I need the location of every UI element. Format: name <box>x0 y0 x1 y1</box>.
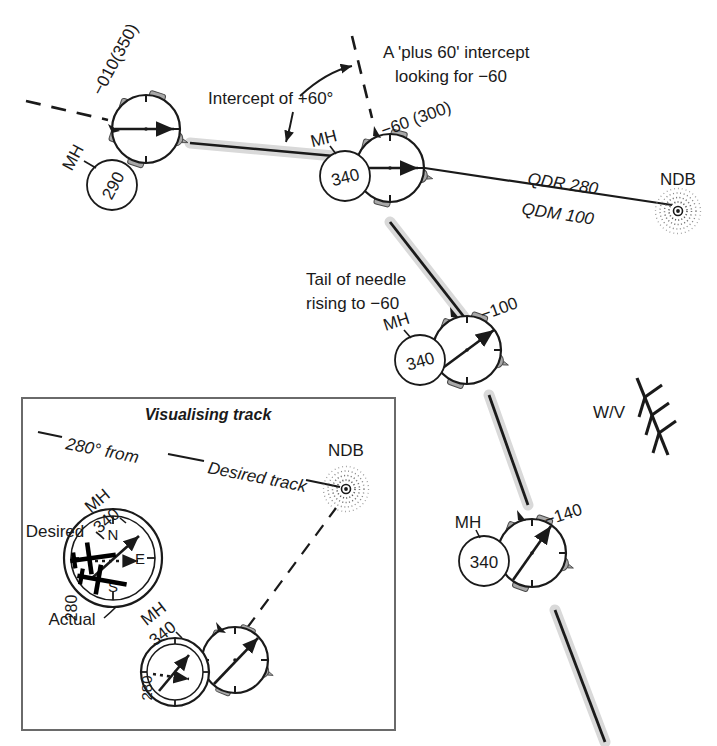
qdm-label: QDM 100 <box>520 199 595 229</box>
aircraft-2-mh-label: MH <box>309 126 339 151</box>
plus60-callout-line2: looking for −60 <box>395 67 507 86</box>
aircraft-1-relative-bearing: −010(350) <box>88 21 141 99</box>
aircraft-4-relative-bearing: −140 <box>542 500 584 530</box>
inset-compass-e: E <box>135 550 145 567</box>
aircraft-4: 340 MH −140 <box>455 500 587 604</box>
qdr-dashed-extension <box>352 36 372 118</box>
ndb-label-main: NDB <box>660 170 696 189</box>
leg-4-onward <box>555 610 605 742</box>
aircraft-1-mh-label: MH <box>59 141 88 173</box>
inset-aircraft-track-value: 280 <box>138 675 155 700</box>
aircraft-4-mh-bubble: 340 <box>459 536 509 586</box>
inset-aircraft-adf-dial <box>202 627 268 693</box>
aircraft-1-track-extension <box>26 101 108 120</box>
wind-velocity-arrow <box>637 378 676 455</box>
aircraft-2-relative-bearing: −60 (300) <box>378 97 453 140</box>
aircraft-4-mh-label: MH <box>455 513 481 532</box>
inset-ndb-label: NDB <box>328 441 364 460</box>
tail-callout-line2: rising to −60 <box>306 294 399 313</box>
aircraft-3: 340 MH −100 <box>381 293 522 401</box>
inset-actual-label: Actual <box>48 610 95 629</box>
aircraft-1: 290 MH −010(350) <box>59 21 200 210</box>
aircraft-3-relative-bearing: −100 <box>478 293 520 324</box>
aircraft-1-adf-dial <box>112 95 180 163</box>
aircraft-2-mh-bubble: 340 <box>320 151 370 201</box>
inset-visualising-track: Visualising track 280° from Desired trac… <box>22 398 395 730</box>
aircraft-3-mh-bubble: 340 <box>395 335 445 385</box>
wind-velocity-label: W/V <box>593 403 626 422</box>
inset-title: Visualising track <box>145 406 273 423</box>
plus60-callout-line1: A 'plus 60' intercept <box>383 43 530 62</box>
ndb-beacon-main <box>656 189 701 234</box>
tail-callout-line1: Tail of needle <box>306 270 406 289</box>
inset-desired-label: Desired <box>26 522 85 541</box>
intercept-callout-label: Intercept of +60° <box>208 89 333 108</box>
diagram-canvas: 290 MH −010(350) 340 MH −60 (300) <box>0 0 717 746</box>
intercept-callout-leader-down <box>286 112 293 142</box>
aircraft-4-mh-value: 340 <box>470 553 498 572</box>
leg-3-4 <box>489 395 528 505</box>
aircraft-2: 340 MH −60 (300) <box>309 97 454 216</box>
qdr-label: QDR 280 <box>526 169 599 198</box>
